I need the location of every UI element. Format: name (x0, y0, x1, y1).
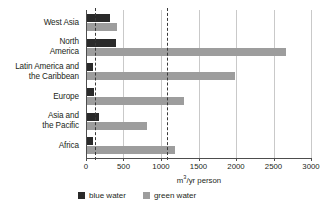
tick-mark-2000 (236, 158, 237, 161)
tick-label-1500: 1500 (190, 162, 207, 171)
tick-label-3000: 3000 (302, 162, 319, 171)
legend: blue water green water (78, 191, 196, 200)
bar-group-west-asia (86, 10, 311, 35)
bar-green-water-north-america[interactable] (86, 48, 286, 56)
gridline-3000 (311, 10, 312, 158)
tick-mark-500 (123, 158, 124, 161)
category-label-asia-and-the-pacific: Asia and the Pacific (0, 109, 82, 134)
tick-label-2000: 2000 (227, 162, 244, 171)
category-label-africa: Africa (0, 133, 82, 158)
bar-blue-water-asia-and-the-pacific[interactable] (86, 113, 99, 121)
plot-area (86, 10, 311, 158)
category-axis-labels: West Asia North America Latin America an… (0, 10, 82, 158)
bars (86, 109, 311, 134)
tick-mark-0 (86, 158, 87, 161)
bar-group-asia-and-the-pacific (86, 109, 311, 134)
bars (86, 35, 311, 60)
tick-mark-2500 (274, 158, 275, 161)
legend-swatch-icon-green-water (143, 192, 150, 199)
bar-group-latin-america-and-the-caribbean (86, 59, 311, 84)
bar-green-water-west-asia[interactable] (86, 23, 117, 31)
bar-blue-water-europe[interactable] (86, 88, 94, 96)
legend-item-blue-water[interactable]: blue water (78, 191, 126, 200)
axis-unit-suffix: /yr person (186, 176, 221, 185)
legend-label-blue-water: blue water (89, 191, 126, 200)
category-label-north-america: North America (0, 35, 82, 60)
bar-green-water-europe[interactable] (86, 97, 184, 105)
bar-blue-water-africa[interactable] (86, 137, 93, 145)
bar-group-africa (86, 133, 311, 158)
value-axis-origin-line (86, 10, 87, 159)
tick-label-2500: 2500 (265, 162, 282, 171)
tick-label-0: 0 (84, 162, 88, 171)
bar-group-north-america (86, 35, 311, 60)
tick-label-1000: 1000 (152, 162, 169, 171)
value-axis-title: m3/yr person (86, 176, 312, 185)
bars (86, 59, 311, 84)
bars (86, 10, 311, 35)
bars (86, 84, 311, 109)
bar-green-water-asia-and-the-pacific[interactable] (86, 122, 147, 130)
category-label-west-asia: West Asia (0, 10, 82, 35)
bar-group-europe (86, 84, 311, 109)
bar-blue-water-north-america[interactable] (86, 39, 116, 47)
bar-blue-water-latin-america-and-the-caribbean[interactable] (86, 63, 93, 71)
bar-green-water-africa[interactable] (86, 146, 175, 154)
legend-swatch-icon-blue-water (78, 192, 85, 199)
tick-mark-1000 (161, 158, 162, 161)
category-label-latin-america-and-the-caribbean: Latin America and the Caribbean (0, 59, 82, 84)
bar-rows (86, 10, 311, 158)
legend-label-green-water: green water (154, 191, 196, 200)
category-label-europe: Europe (0, 84, 82, 109)
tick-mark-3000 (311, 158, 312, 161)
bar-blue-water-west-asia[interactable] (86, 14, 110, 22)
bar-green-water-latin-america-and-the-caribbean[interactable] (86, 72, 235, 80)
legend-item-green-water[interactable]: green water (143, 191, 196, 200)
value-axis-ticks: 050010001500200025003000 (86, 160, 311, 172)
tick-label-500: 500 (117, 162, 130, 171)
bars (86, 133, 311, 158)
tick-mark-1500 (199, 158, 200, 161)
horizontal-bar-chart: West Asia North America Latin America an… (0, 0, 335, 206)
